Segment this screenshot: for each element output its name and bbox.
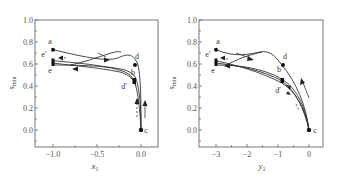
- right-label-a: a: [216, 37, 220, 46]
- right-dashed-arrow-low: [296, 104, 299, 110]
- right-point-eprime: [215, 59, 218, 63]
- left-ytick-2: 0.4: [23, 82, 33, 91]
- right-xtick-1: −2: [243, 150, 252, 159]
- left-label-b: b: [131, 68, 135, 77]
- right-curve-mid: [216, 63, 309, 130]
- left-ytick-5: 1.0: [23, 16, 33, 25]
- right-point-a: [214, 48, 218, 52]
- right-point-dprime: [281, 78, 285, 83]
- right-ytick-3: 0.6: [187, 60, 197, 69]
- right-arrow-left-2: [220, 56, 225, 61]
- right-ytick-5: 1.0: [187, 16, 197, 25]
- left-chart: 0.0 0.2 0.4 0.6 0.8 1.0 −1.0 −0.5 0.0 sm…: [6, 16, 158, 172]
- left-curve-crossing: [70, 52, 121, 65]
- right-label-c: c: [313, 126, 317, 135]
- left-label-c: c: [144, 126, 148, 135]
- svg-text:smin: smin: [6, 77, 17, 90]
- right-arrow-down-1: [286, 91, 291, 95]
- left-arrow-right-1: [104, 58, 110, 63]
- svg-text:smin: smin: [166, 77, 177, 90]
- left-label-a: a: [48, 37, 52, 46]
- right-y-axis-label: smin: [166, 77, 177, 90]
- left-point-c: [139, 128, 143, 132]
- left-ytick-0: 0.0: [23, 126, 33, 135]
- right-label-d: d: [283, 52, 287, 61]
- right-label-b: b: [277, 65, 281, 74]
- right-ytick-0: 0.0: [187, 126, 197, 135]
- right-xtick-2: −1: [274, 150, 283, 159]
- right-ytick-1: 0.2: [187, 104, 197, 113]
- right-label-dprime: d′: [275, 86, 281, 95]
- left-point-d: [133, 63, 137, 67]
- left-label-d: d: [135, 52, 139, 61]
- left-point-eprime: [52, 59, 55, 63]
- right-label-e: e: [211, 66, 215, 75]
- right-arrow-right-1: [247, 56, 254, 61]
- left-point-dprime: [133, 78, 137, 84]
- left-xtick-0: −1.0: [46, 150, 61, 159]
- right-arrow-up: [300, 78, 305, 85]
- left-point-e: [52, 62, 55, 66]
- left-y-axis-label: smin: [6, 77, 17, 90]
- right-x-axis-label: y1: [258, 161, 266, 172]
- right-xtick-0: −3: [212, 150, 221, 159]
- right-point-d: [281, 63, 285, 67]
- right-points: [214, 48, 311, 133]
- left-label-eprime: e′: [41, 50, 47, 59]
- left-xtick-2: 0.0: [136, 150, 146, 159]
- right-point-e: [215, 62, 218, 66]
- left-x-axis-label: x1: [91, 161, 99, 172]
- left-arrow-left-2: [58, 56, 63, 61]
- right-label-eprime: e′: [205, 50, 211, 59]
- left-ytick-4: 0.8: [23, 38, 33, 47]
- right-chart: 0.0 0.2 0.4 0.6 0.8 1.0 −3 −2 −1 0 smin …: [166, 16, 323, 172]
- left-curve-e-b-c: [53, 65, 141, 130]
- right-xtick-3: 0: [307, 150, 311, 159]
- left-xtick-1: −0.5: [90, 150, 105, 159]
- right-ytick-2: 0.4: [187, 82, 197, 91]
- left-label-e: e: [48, 66, 52, 75]
- right-point-c: [307, 128, 311, 132]
- left-arrow-left-1: [72, 67, 78, 72]
- left-points: [51, 48, 143, 133]
- left-plot-frame: [35, 20, 158, 147]
- left-ytick-1: 0.2: [23, 104, 33, 113]
- right-curve-a-d-c: [216, 50, 309, 130]
- left-ytick-3: 0.6: [23, 60, 33, 69]
- left-label-dprime: d′: [121, 82, 127, 91]
- left-point-a: [51, 48, 55, 52]
- right-ytick-4: 0.8: [187, 38, 197, 47]
